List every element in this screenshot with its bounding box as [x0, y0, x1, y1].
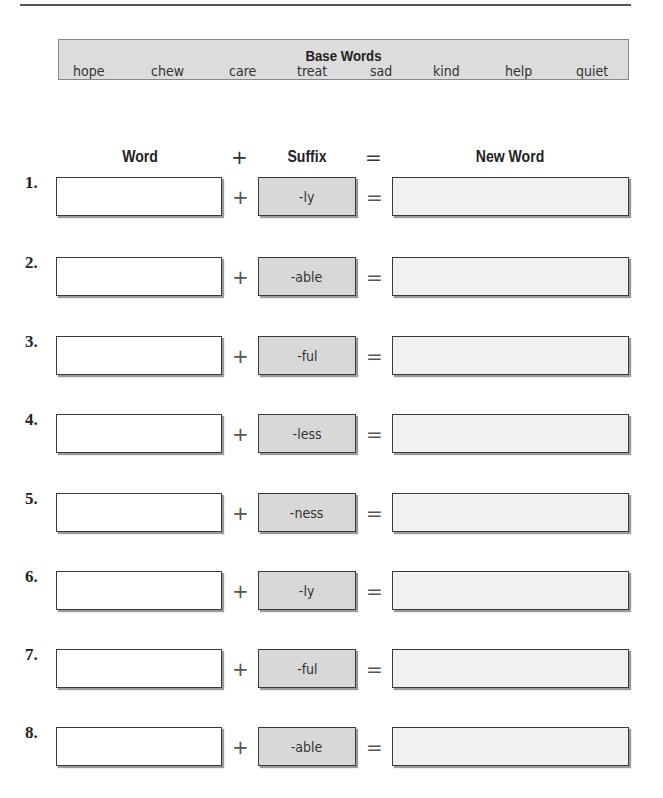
- suffix-box: -ful: [258, 649, 356, 688]
- column-header-new-word: New Word: [448, 148, 571, 166]
- suffix-label: -ly: [299, 583, 315, 599]
- equals-sign: =: [366, 735, 383, 759]
- word-input-box[interactable]: [56, 414, 222, 453]
- new-word-input-box[interactable]: [392, 336, 629, 375]
- equals-sign: =: [366, 344, 383, 368]
- exercise-row: 6. + -ly =: [0, 571, 663, 615]
- suffix-box: -able: [258, 727, 356, 766]
- exercise-row: 5. + -ness =: [0, 493, 663, 537]
- row-number: 6.: [25, 567, 38, 587]
- plus-sign: +: [232, 344, 249, 368]
- word-input-box[interactable]: [56, 571, 222, 610]
- plus-sign: +: [232, 185, 249, 209]
- exercise-row: 8. + -able =: [0, 727, 663, 771]
- new-word-input[interactable]: [393, 337, 628, 374]
- column-header-suffix: Suffix: [274, 148, 339, 166]
- suffix-label: -able: [291, 739, 323, 755]
- exercise-row: 1. + -ly =: [0, 177, 663, 221]
- top-divider: [20, 4, 631, 6]
- equals-sign: =: [366, 422, 383, 446]
- suffix-box: -ness: [258, 493, 356, 532]
- base-word: care: [229, 63, 256, 79]
- word-input-box[interactable]: [56, 177, 222, 216]
- word-input[interactable]: [57, 415, 221, 452]
- base-words-box: Base Words hope chew care treat sad kind…: [58, 39, 629, 80]
- equals-sign: =: [366, 265, 383, 289]
- row-number: 1.: [25, 173, 38, 193]
- word-input-box[interactable]: [56, 336, 222, 375]
- equals-sign: =: [366, 501, 383, 525]
- suffix-label: -able: [291, 269, 323, 285]
- row-number: 3.: [25, 332, 38, 352]
- row-number: 5.: [25, 489, 38, 509]
- plus-header: +: [231, 145, 248, 169]
- new-word-input[interactable]: [393, 728, 628, 765]
- plus-sign: +: [232, 501, 249, 525]
- base-word: help: [505, 63, 532, 79]
- plus-sign: +: [232, 579, 249, 603]
- word-input[interactable]: [57, 650, 221, 687]
- suffix-label: -ful: [297, 661, 317, 677]
- suffix-box: -ful: [258, 336, 356, 375]
- word-input-box[interactable]: [56, 257, 222, 296]
- suffix-label: -ness: [290, 505, 323, 521]
- new-word-input[interactable]: [393, 650, 628, 687]
- exercise-row: 2. + -able =: [0, 257, 663, 301]
- equals-header: =: [365, 145, 382, 169]
- base-word: treat: [297, 63, 327, 79]
- base-word: quiet: [576, 63, 608, 79]
- equals-sign: =: [366, 579, 383, 603]
- suffix-label: -ful: [297, 348, 317, 364]
- new-word-input-box[interactable]: [392, 493, 629, 532]
- new-word-input[interactable]: [393, 494, 628, 531]
- word-input[interactable]: [57, 258, 221, 295]
- base-words-title: Base Words: [93, 47, 594, 64]
- word-input-box[interactable]: [56, 493, 222, 532]
- exercise-row: 3. + -ful =: [0, 336, 663, 380]
- plus-sign: +: [232, 422, 249, 446]
- new-word-input-box[interactable]: [392, 649, 629, 688]
- row-number: 2.: [25, 253, 38, 273]
- exercise-row: 4. + -less =: [0, 414, 663, 458]
- new-word-input[interactable]: [393, 178, 628, 215]
- word-input[interactable]: [57, 178, 221, 215]
- suffix-box: -ly: [258, 571, 356, 610]
- new-word-input[interactable]: [393, 258, 628, 295]
- base-word: hope: [73, 63, 104, 79]
- word-input[interactable]: [57, 494, 221, 531]
- new-word-input-box[interactable]: [392, 257, 629, 296]
- new-word-input[interactable]: [393, 415, 628, 452]
- row-number: 4.: [25, 410, 38, 430]
- new-word-input-box[interactable]: [392, 727, 629, 766]
- base-word: kind: [433, 63, 460, 79]
- base-word: sad: [370, 63, 392, 79]
- base-word: chew: [151, 63, 184, 79]
- plus-sign: +: [232, 265, 249, 289]
- word-input-box[interactable]: [56, 727, 222, 766]
- base-words-list: hope chew care treat sad kind help quiet: [59, 63, 628, 79]
- suffix-box: -less: [258, 414, 356, 453]
- equals-sign: =: [366, 185, 383, 209]
- new-word-input-box[interactable]: [392, 177, 629, 216]
- plus-sign: +: [232, 735, 249, 759]
- word-input[interactable]: [57, 728, 221, 765]
- suffix-label: -ly: [299, 189, 315, 205]
- plus-sign: +: [232, 657, 249, 681]
- exercise-row: 7. + -ful =: [0, 649, 663, 693]
- equals-sign: =: [366, 657, 383, 681]
- word-input[interactable]: [57, 337, 221, 374]
- column-header-word: Word: [105, 148, 175, 166]
- row-number: 7.: [25, 645, 38, 665]
- row-number: 8.: [25, 723, 38, 743]
- new-word-input[interactable]: [393, 572, 628, 609]
- suffix-box: -ly: [258, 177, 356, 216]
- suffix-box: -able: [258, 257, 356, 296]
- new-word-input-box[interactable]: [392, 571, 629, 610]
- word-input-box[interactable]: [56, 649, 222, 688]
- suffix-label: -less: [293, 426, 322, 442]
- word-input[interactable]: [57, 572, 221, 609]
- new-word-input-box[interactable]: [392, 414, 629, 453]
